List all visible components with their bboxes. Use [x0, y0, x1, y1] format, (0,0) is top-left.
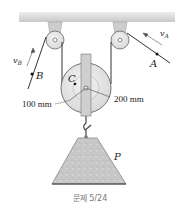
right-fixed-pulley	[111, 22, 129, 49]
point-b-dot	[31, 73, 34, 76]
right-pulley-axle	[118, 38, 122, 42]
rope-b	[28, 37, 46, 89]
label-vb: vB	[13, 56, 23, 66]
label-p: P	[113, 151, 121, 162]
pulley-diagram: B A C P vB vA 100 mm 200 mm 문제 5/24	[0, 0, 181, 206]
arrow-va-head	[143, 33, 148, 37]
left-fixed-pulley	[46, 22, 64, 49]
label-va: vA	[160, 29, 170, 39]
dimension-200mm: 200 mm	[114, 94, 144, 104]
point-a-dot	[156, 53, 159, 56]
hook	[84, 116, 91, 138]
ceiling-beam	[19, 12, 175, 22]
compound-pulley	[55, 54, 111, 116]
arrow-vb-head	[31, 48, 35, 53]
hanger-strap	[81, 54, 91, 116]
label-c: C	[68, 73, 76, 84]
figure-caption: 문제 5/24	[73, 194, 108, 203]
left-pulley-axle	[53, 38, 57, 42]
label-a: A	[149, 58, 157, 69]
label-b: B	[35, 70, 43, 81]
dimension-100mm: 100 mm	[22, 99, 52, 109]
